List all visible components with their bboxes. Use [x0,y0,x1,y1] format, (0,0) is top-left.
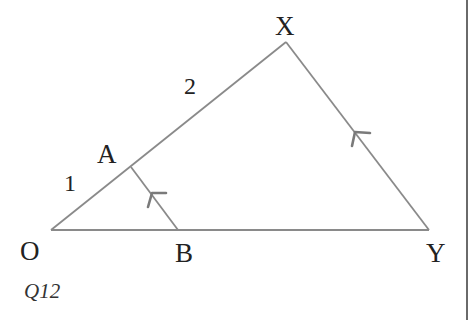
vertex-label-a: A [97,141,117,168]
parallel-arrow-icon [352,132,370,146]
vertex-label-x: X [275,13,295,40]
frame-border [466,0,468,320]
segment-length-oa: 1 [64,171,76,195]
segment-xy [286,42,429,230]
vertex-label-b: B [175,240,193,267]
vertex-label-y: Y [426,240,446,267]
segment-ab [131,167,178,230]
vertex-label-o: O [20,238,40,265]
parallel-arrow-icon [148,193,166,207]
question-label: Q12 [24,281,60,302]
triangle-diagram [0,0,469,320]
segment-ox [51,42,286,230]
segment-length-ax: 2 [184,74,196,98]
